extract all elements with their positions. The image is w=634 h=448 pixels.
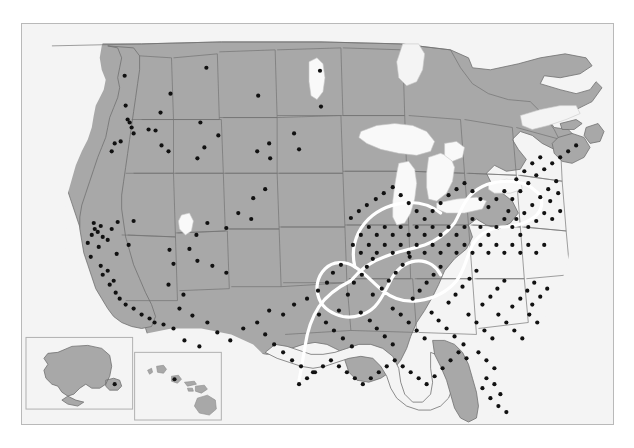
site-marker (545, 287, 549, 291)
site-marker (502, 189, 506, 193)
site-marker (522, 211, 526, 215)
site-marker (181, 293, 185, 297)
site-marker (476, 350, 480, 354)
site-marker (324, 320, 328, 324)
site-marker (187, 247, 191, 251)
site-marker (204, 66, 208, 70)
site-marker (550, 161, 554, 165)
site-marker (548, 199, 552, 203)
site-marker (495, 287, 499, 291)
site-marker (415, 328, 419, 332)
site-marker (113, 141, 117, 145)
site-marker (415, 209, 419, 213)
site-marker (195, 156, 199, 160)
site-marker (357, 209, 361, 213)
site-marker (106, 238, 110, 242)
site-marker (205, 221, 209, 225)
site-marker (391, 233, 395, 237)
site-marker (393, 358, 397, 362)
site-marker (380, 287, 384, 291)
site-marker (140, 312, 144, 316)
site-marker (488, 295, 492, 299)
lanai-island (187, 388, 193, 391)
site-marker (520, 336, 524, 340)
site-marker (281, 350, 285, 354)
site-marker (488, 396, 492, 400)
site-marker (542, 243, 546, 247)
site-marker (353, 376, 357, 380)
site-marker (351, 243, 355, 247)
site-marker (480, 303, 484, 307)
site-marker (90, 233, 94, 237)
site-marker (431, 209, 435, 213)
site-marker (456, 350, 460, 354)
site-marker (361, 382, 365, 386)
site-marker (474, 269, 478, 273)
site-marker (401, 263, 405, 267)
site-marker (566, 149, 570, 153)
site-marker (478, 225, 482, 229)
site-marker (478, 197, 482, 201)
site-marker (374, 197, 378, 201)
site-marker (486, 205, 490, 209)
site-marker (470, 251, 474, 255)
site-marker (486, 251, 490, 255)
site-marker (359, 251, 363, 255)
site-marker (506, 209, 510, 213)
site-marker (367, 243, 371, 247)
site-marker (97, 245, 101, 249)
site-marker (407, 320, 411, 324)
site-marker (462, 243, 466, 247)
site-marker (197, 344, 201, 348)
site-marker (391, 251, 395, 255)
site-marker (432, 273, 436, 277)
site-marker (159, 143, 163, 147)
site-marker (369, 376, 373, 380)
site-marker (177, 306, 181, 310)
site-marker (492, 382, 496, 386)
site-marker (228, 338, 232, 342)
site-marker (546, 187, 550, 191)
site-marker (526, 243, 530, 247)
site-marker (101, 273, 105, 277)
site-marker (124, 303, 128, 307)
site-marker (132, 219, 136, 223)
site-marker (167, 248, 171, 252)
alaska-inset (26, 337, 133, 409)
site-marker (518, 189, 522, 193)
site-marker (382, 191, 386, 195)
site-marker (168, 92, 172, 96)
site-marker (195, 259, 199, 263)
site-marker (525, 289, 529, 293)
site-marker (329, 358, 333, 362)
site-marker (147, 316, 151, 320)
site-marker (305, 297, 309, 301)
site-marker (255, 320, 259, 324)
site-marker (198, 120, 202, 124)
site-marker (241, 326, 245, 330)
site-marker (345, 370, 349, 374)
site-marker (194, 233, 198, 237)
site-marker (510, 225, 514, 229)
site-marker (514, 177, 518, 181)
site-marker (182, 338, 186, 342)
site-marker (367, 225, 371, 229)
site-marker (411, 297, 415, 301)
site-marker (466, 312, 470, 316)
site-marker (127, 243, 131, 247)
site-marker (502, 251, 506, 255)
site-marker (461, 342, 465, 346)
site-marker (331, 271, 335, 275)
site-marker (114, 291, 118, 295)
site-marker (110, 227, 114, 231)
site-marker (375, 233, 379, 237)
site-marker (292, 131, 296, 135)
site-marker (530, 203, 534, 207)
site-marker (482, 328, 486, 332)
site-marker (399, 225, 403, 229)
site-marker (399, 312, 403, 316)
site-marker (502, 217, 506, 221)
site-marker (415, 243, 419, 247)
site-marker (116, 220, 120, 224)
site-marker (346, 293, 350, 297)
